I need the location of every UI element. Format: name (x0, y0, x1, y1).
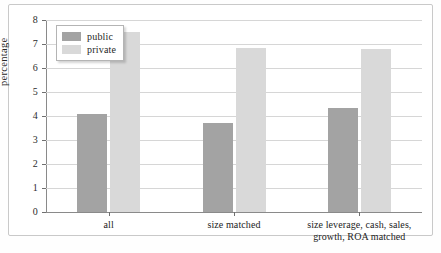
legend-swatch-public-icon (62, 32, 81, 41)
y-tick-label: 5 (12, 87, 38, 97)
bar-private-1 (236, 48, 266, 212)
legend-label-public: public (87, 31, 113, 42)
y-tick-mark (42, 116, 46, 117)
y-tick-label: 4 (12, 111, 38, 121)
gridline (46, 20, 422, 21)
y-tick-label: 1 (12, 183, 38, 193)
bar-private-2 (361, 49, 391, 212)
x-tick-label: all (46, 219, 171, 231)
x-tick-label: size leverage, cash, sales,growth, ROA m… (297, 219, 422, 243)
chart-legend: public private (56, 25, 124, 61)
bar-public-2 (328, 108, 358, 212)
bar-public-1 (203, 123, 233, 212)
figure-container: percentage 012345678 allsize matchedsize… (0, 0, 441, 253)
legend-item-private: private (62, 43, 116, 56)
legend-label-private: private (87, 44, 116, 55)
y-tick-mark (42, 20, 46, 21)
legend-item-public: public (62, 30, 116, 43)
y-tick-label: 0 (12, 207, 38, 217)
bar-public-0 (77, 114, 107, 212)
y-tick-label: 2 (12, 159, 38, 169)
legend-swatch-private-icon (62, 45, 81, 54)
x-tick-mark (109, 212, 110, 216)
y-axis-label: percentage (0, 38, 9, 86)
y-tick-label: 3 (12, 135, 38, 145)
x-tick-label: size matched (171, 219, 296, 231)
y-tick-mark (42, 44, 46, 45)
y-tick-mark (42, 212, 46, 213)
y-tick-label: 6 (12, 63, 38, 73)
x-tick-mark (359, 212, 360, 216)
y-tick-mark (42, 164, 46, 165)
y-tick-mark (42, 92, 46, 93)
x-tick-mark (234, 212, 235, 216)
y-tick-mark (42, 140, 46, 141)
y-tick-mark (42, 68, 46, 69)
y-tick-label: 8 (12, 15, 38, 25)
y-tick-mark (42, 188, 46, 189)
y-tick-label: 7 (12, 39, 38, 49)
